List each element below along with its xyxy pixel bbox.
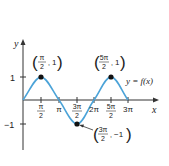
- point-label-3pi-half: ( 3π 2 , −1 ): [93, 125, 132, 144]
- x-axis-arrow-icon: [153, 98, 159, 103]
- x-tick-label-3pi-half: 3π 2: [72, 103, 82, 119]
- x-tick-label-5pi-half: 5π 2: [106, 103, 116, 119]
- svg-text:): ): [120, 53, 126, 72]
- sine-graph: y x 1 −1 π 2 π 3π 2 2π 5π 2 3π y = f(x) …: [0, 0, 169, 166]
- pointer-arrow-icon: [79, 125, 84, 128]
- svg-text:2: 2: [109, 112, 113, 119]
- y-tick-label-neg1: −1: [4, 120, 14, 130]
- point-label-5pi-half: ( 5π 2 , 1 ): [94, 53, 126, 72]
- svg-text:2: 2: [40, 63, 44, 70]
- svg-text:2: 2: [75, 112, 79, 119]
- svg-text:π: π: [40, 54, 45, 61]
- max-point-2: [108, 74, 113, 79]
- svg-text:2: 2: [101, 135, 105, 142]
- svg-text:5π: 5π: [107, 103, 116, 110]
- svg-text:3π: 3π: [99, 126, 108, 133]
- svg-text:2: 2: [39, 112, 43, 119]
- max-point-1: [38, 74, 43, 79]
- svg-text:3π: 3π: [73, 103, 82, 110]
- svg-text:,: ,: [111, 59, 113, 66]
- svg-text:2: 2: [102, 63, 106, 70]
- y-axis-arrow-icon: [21, 39, 26, 45]
- svg-text:−1: −1: [114, 130, 124, 139]
- y-tick-label-1: 1: [10, 73, 15, 83]
- x-tick-label-2pi: 2π: [89, 105, 99, 114]
- svg-text:): ): [57, 53, 63, 72]
- x-axis-label: x: [151, 104, 157, 115]
- y-axis-label: y: [13, 38, 19, 49]
- svg-text:π: π: [39, 103, 44, 110]
- min-point: [74, 121, 79, 126]
- svg-text:5π: 5π: [100, 54, 109, 61]
- x-tick-label-3pi: 3π: [123, 105, 133, 114]
- svg-text:(: (: [32, 53, 38, 72]
- svg-text:): ): [126, 125, 132, 144]
- svg-text:,: ,: [48, 59, 50, 66]
- svg-text:,: ,: [110, 131, 112, 138]
- point-label-pi-half: ( π 2 , 1 ): [32, 53, 63, 72]
- function-label: y = f(x): [125, 76, 153, 86]
- x-tick-label-pi-half: π 2: [37, 103, 45, 119]
- x-tick-label-pi: π: [56, 105, 62, 114]
